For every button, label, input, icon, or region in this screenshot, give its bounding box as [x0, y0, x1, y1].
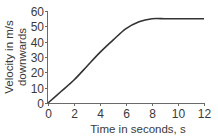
velocity-time-chart: 0102030405060 024681012 Velocity in m/s … — [0, 0, 218, 139]
x-tick-label: 10 — [172, 107, 186, 121]
x-tick-label: 0 — [45, 107, 52, 121]
y-tick-label: 0 — [37, 97, 44, 111]
y-axis-label-line-1: Velocity in m/s — [3, 20, 15, 94]
x-axis-label: Time in seconds, s — [90, 123, 186, 135]
velocity-curve — [48, 18, 204, 103]
y-tick-label: 50 — [31, 20, 45, 34]
x-tick-label: 8 — [149, 107, 156, 121]
x-tick-label: 12 — [198, 107, 212, 121]
y-tick-label: 60 — [31, 5, 45, 19]
y-tick-label: 10 — [31, 82, 45, 96]
x-axis-ticks: 024681012 — [45, 103, 211, 121]
y-axis-ticks: 0102030405060 — [31, 5, 48, 111]
x-tick-label: 6 — [123, 107, 130, 121]
y-tick-label: 20 — [31, 66, 45, 80]
y-axis-label-line-2: downwards — [16, 28, 28, 86]
x-tick-label: 2 — [71, 107, 78, 121]
y-tick-label: 30 — [31, 51, 45, 65]
y-tick-label: 40 — [31, 36, 45, 50]
x-tick-label: 4 — [97, 107, 104, 121]
